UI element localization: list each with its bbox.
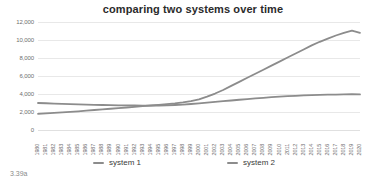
y-axis-tick-label: 8,000	[19, 55, 34, 61]
x-axis-tick-label: 1997	[172, 144, 178, 155]
x-axis-tick-label: 2010	[277, 144, 283, 155]
x-axis-tick-label: 2009	[268, 144, 274, 155]
x-axis-tick-label: 1985	[75, 144, 81, 155]
x-axis-labels: 1980198119821983198419851986198719881989…	[38, 131, 360, 155]
x-axis-tick-label: 2006	[244, 144, 250, 155]
y-axis-labels: 02,0004,0006,0008,00010,00012,000	[0, 22, 34, 130]
x-axis-tick-label: 2013	[301, 144, 307, 155]
x-axis-tick-label: 1980	[35, 144, 41, 155]
x-axis-tick-label: 1981	[43, 144, 49, 155]
x-axis-tick-label: 1987	[91, 144, 97, 155]
x-axis-tick-label: 2017	[333, 144, 339, 155]
x-axis-tick-label: 1984	[67, 144, 73, 155]
x-axis-tick-label: 1999	[188, 144, 194, 155]
legend-swatch-icon	[227, 162, 238, 164]
chart-title: comparing two systems over time	[0, 3, 368, 15]
legend-item[interactable]: system 2	[227, 158, 275, 167]
y-axis-tick-label: 10,000	[16, 37, 34, 43]
chart-figure: comparing two systems over time 02,0004,…	[0, 0, 368, 187]
x-axis-tick-label: 1993	[140, 144, 146, 155]
y-axis-tick-label: 6,000	[19, 73, 34, 79]
x-axis-tick-label: 2015	[317, 144, 323, 155]
x-axis-tick-label: 2005	[236, 144, 242, 155]
figure-caption: 3.39a	[10, 170, 28, 177]
y-axis-tick-label: 12,000	[16, 19, 34, 25]
x-axis-tick-label: 1989	[107, 144, 113, 155]
x-axis-tick-label: 1991	[124, 144, 130, 155]
x-axis-tick-label: 2007	[252, 144, 258, 155]
x-axis-tick-label: 1990	[116, 144, 122, 155]
x-axis-tick-label: 2018	[341, 144, 347, 155]
plot-area	[38, 22, 360, 130]
x-axis-tick-label: 2016	[325, 144, 331, 155]
x-axis-tick-label: 2020	[357, 144, 363, 155]
x-axis-tick-label: 2002	[212, 144, 218, 155]
x-axis-tick-label: 2000	[196, 144, 202, 155]
x-axis-tick-label: 1998	[180, 144, 186, 155]
series-container	[38, 22, 360, 130]
y-axis-tick-label: 2,000	[19, 109, 34, 115]
x-axis-tick-label: 1995	[156, 144, 162, 155]
x-axis-tick-label: 2014	[309, 144, 315, 155]
legend-item[interactable]: system 1	[93, 158, 141, 167]
x-axis-tick-label: 1982	[51, 144, 57, 155]
legend-label: system 2	[243, 158, 275, 167]
series-line	[38, 31, 360, 114]
x-axis-tick-label: 2012	[293, 144, 299, 155]
x-axis-tick-label: 2019	[349, 144, 355, 155]
legend-swatch-icon	[93, 162, 104, 164]
y-axis-tick-label: 0	[31, 127, 34, 133]
x-axis-tick-label: 1994	[148, 144, 154, 155]
x-axis-tick-label: 1986	[83, 144, 89, 155]
x-axis-tick-label: 1996	[164, 144, 170, 155]
x-axis-tick-label: 2003	[220, 144, 226, 155]
x-axis-tick-label: 1988	[99, 144, 105, 155]
x-axis-tick-label: 1992	[132, 144, 138, 155]
x-axis-tick-label: 2008	[260, 144, 266, 155]
x-axis-tick-label: 2001	[204, 144, 210, 155]
y-axis-tick-label: 4,000	[19, 91, 34, 97]
chart-legend: system 1system 2	[0, 158, 368, 167]
x-axis-tick-label: 1983	[59, 144, 65, 155]
x-axis-tick-label: 2004	[228, 144, 234, 155]
x-axis-tick-label: 2011	[285, 144, 291, 155]
legend-label: system 1	[109, 158, 141, 167]
